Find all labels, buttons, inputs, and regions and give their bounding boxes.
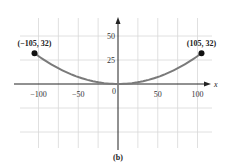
x-axis-arrow-icon xyxy=(204,82,211,87)
y-axis-arrow-icon xyxy=(116,17,121,24)
chart-caption: (b) xyxy=(113,153,123,162)
x-axis-label: x xyxy=(213,80,218,89)
points: (−105, 32)(105, 32) xyxy=(18,39,217,56)
data-point xyxy=(32,50,38,56)
data-point xyxy=(198,50,204,56)
x-tick-label: −50 xyxy=(72,90,85,99)
y-tick-label: 25 xyxy=(107,56,115,65)
x-tick-label: 0 xyxy=(112,87,116,96)
x-tick-label: 100 xyxy=(192,90,204,99)
x-tick-label: −100 xyxy=(30,90,47,99)
data-point-label: (−105, 32) xyxy=(18,39,52,48)
data-point-label: (105, 32) xyxy=(187,39,217,48)
x-tick-label: 50 xyxy=(154,90,162,99)
chart: x −100−500501002550 (−105, 32)(105, 32) … xyxy=(0,0,230,165)
y-tick-label: 50 xyxy=(107,32,115,41)
